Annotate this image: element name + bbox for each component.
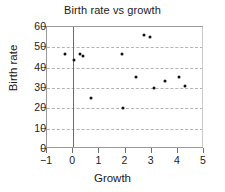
y-tick-label: 20	[18, 101, 46, 113]
y-tick-label: 10	[18, 122, 46, 134]
x-tick-label: 5	[192, 154, 214, 166]
x-axis: −1012345	[46, 148, 203, 172]
data-point	[121, 107, 124, 110]
vertical-axis-line	[73, 27, 74, 147]
data-point	[152, 86, 155, 89]
gridline	[47, 68, 203, 69]
data-point	[163, 80, 166, 83]
x-tick-label: 1	[87, 154, 109, 166]
x-axis-label: Growth	[0, 172, 225, 184]
scatter-chart: Birth rate vs growth 0102030405060 −1012…	[0, 0, 225, 192]
data-point	[135, 76, 138, 79]
gridline	[47, 108, 203, 109]
x-tick	[98, 148, 99, 153]
gridline	[47, 88, 203, 89]
y-tick-label: 50	[18, 40, 46, 52]
y-tick-label: 60	[18, 20, 46, 32]
y-axis-label: Birth rate	[7, 28, 19, 108]
gridline	[47, 47, 203, 48]
x-tick	[177, 148, 178, 153]
x-tick	[46, 148, 47, 153]
data-point	[148, 35, 151, 38]
x-tick	[151, 148, 152, 153]
plot-area	[46, 26, 203, 148]
x-tick-label: 2	[114, 154, 136, 166]
y-tick-label: 0	[18, 142, 46, 154]
data-point	[82, 54, 85, 57]
x-tick	[125, 148, 126, 153]
x-tick	[203, 148, 204, 153]
x-tick-label: 4	[166, 154, 188, 166]
x-tick-label: 3	[140, 154, 162, 166]
data-point	[183, 84, 186, 87]
x-tick-label: 0	[61, 154, 83, 166]
data-point	[72, 58, 75, 61]
data-point	[63, 53, 66, 56]
data-point	[121, 53, 124, 56]
chart-title: Birth rate vs growth	[0, 4, 225, 16]
data-point	[178, 75, 181, 78]
y-tick-label: 30	[18, 81, 46, 93]
x-tick-label: −1	[35, 154, 57, 166]
x-tick	[72, 148, 73, 153]
gridline	[47, 129, 203, 130]
data-point	[143, 34, 146, 37]
y-tick-label: 40	[18, 61, 46, 73]
data-point	[90, 97, 93, 100]
